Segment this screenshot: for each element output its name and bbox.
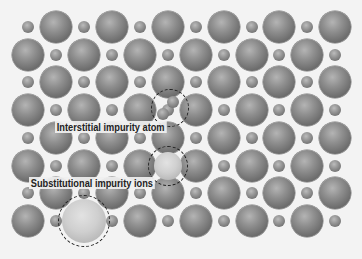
small-ion (329, 215, 341, 227)
small-ion (301, 76, 313, 88)
large-ion (263, 122, 295, 154)
small-ion (106, 160, 118, 172)
small-ion (190, 132, 202, 144)
small-ion (273, 215, 285, 227)
small-ion (190, 76, 202, 88)
small-ion (78, 76, 90, 88)
small-ion (106, 104, 118, 116)
large-ion (96, 66, 128, 98)
large-ion (68, 39, 100, 71)
large-ion (263, 11, 295, 43)
small-ion (273, 160, 285, 172)
small-ion (190, 21, 202, 33)
small-ion (190, 187, 202, 199)
small-ion (301, 21, 313, 33)
small-ion (218, 215, 230, 227)
small-ion (162, 215, 174, 227)
crystal-lattice-diagram: Interstitial impurity atom Substitutiona… (0, 0, 362, 259)
small-ion (22, 21, 34, 33)
large-ion (236, 150, 268, 182)
large-ion (152, 11, 184, 43)
small-ion (329, 160, 341, 172)
large-ion (208, 11, 240, 43)
large-ion (291, 94, 323, 126)
small-ion (106, 49, 118, 61)
large-ion (319, 11, 351, 43)
small-ion (301, 132, 313, 144)
large-ion (319, 177, 351, 209)
large-ion (208, 122, 240, 154)
small-ion (162, 49, 174, 61)
small-ion (50, 104, 62, 116)
large-ion (208, 66, 240, 98)
large-ion (291, 205, 323, 237)
large-ion (319, 122, 351, 154)
small-ion (246, 187, 258, 199)
large-ion (124, 39, 156, 71)
small-ion (134, 21, 146, 33)
substitutional-impurity-label: Substitutional impurity ions (29, 177, 155, 189)
large-ion (319, 66, 351, 98)
small-ion (218, 49, 230, 61)
large-ion (291, 39, 323, 71)
large-ion (180, 39, 212, 71)
large-ion (263, 177, 295, 209)
small-ion (329, 49, 341, 61)
small-ion (78, 132, 90, 144)
small-ion (78, 21, 90, 33)
small-ion (301, 187, 313, 199)
large-ion (236, 205, 268, 237)
large-ion (236, 94, 268, 126)
large-ion (40, 66, 72, 98)
small-ion (218, 104, 230, 116)
small-ion (22, 76, 34, 88)
large-ion (208, 177, 240, 209)
substitutional-dashed-ring (58, 195, 110, 247)
small-ion (50, 160, 62, 172)
small-ion (246, 21, 258, 33)
large-ion (236, 39, 268, 71)
large-ion (12, 94, 44, 126)
large-ion (12, 205, 44, 237)
large-ion (40, 11, 72, 43)
small-ion (50, 49, 62, 61)
interstitial-impurity-label: Interstitial impurity atom (55, 121, 166, 133)
small-ion (329, 104, 341, 116)
large-ion (263, 66, 295, 98)
small-ion (134, 132, 146, 144)
small-ion (273, 49, 285, 61)
large-ion (180, 205, 212, 237)
large-ion (124, 205, 156, 237)
small-ion (134, 76, 146, 88)
large-ion (291, 150, 323, 182)
small-ion (246, 76, 258, 88)
small-ion (246, 132, 258, 144)
large-ion (12, 39, 44, 71)
large-ion (96, 11, 128, 43)
small-ion (273, 104, 285, 116)
small-ion (22, 132, 34, 144)
small-ion (218, 160, 230, 172)
